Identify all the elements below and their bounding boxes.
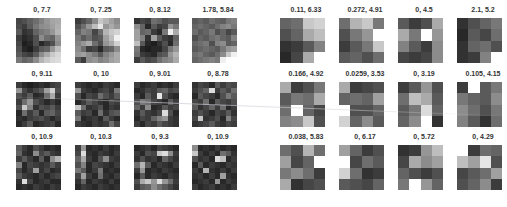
pixel-cell: [373, 52, 384, 63]
pixel-cell: [373, 156, 384, 167]
pixel-cell: [373, 18, 384, 29]
pixel-cell: [480, 168, 491, 179]
pixel-cell: [398, 105, 409, 116]
pixel-grid: [280, 82, 325, 127]
pixel-cell: [339, 18, 350, 29]
pixel-cell: [314, 168, 325, 179]
pixel-cell: [280, 41, 291, 52]
pixel-grid: [457, 18, 502, 63]
pixel-cell: [421, 156, 432, 167]
pixel-cell: [468, 156, 479, 167]
pixel-cell: [457, 93, 468, 104]
pixel-cell: [491, 41, 502, 52]
pixel-cell: [468, 41, 479, 52]
pixel-cell: [421, 105, 432, 116]
pixel-cell: [303, 116, 314, 127]
pixel-cell: [291, 145, 302, 156]
pixel-cell: [432, 93, 443, 104]
pixel-cell: [231, 57, 237, 63]
pixel-grid: [192, 145, 237, 190]
pixel-cell: [291, 29, 302, 40]
pixel-grid: [398, 145, 443, 190]
pixel-cell: [457, 82, 468, 93]
pixel-cell: [314, 18, 325, 29]
pixel-cell: [362, 179, 373, 190]
pixel-cell: [303, 93, 314, 104]
pixel-cell: [362, 52, 373, 63]
pixel-cell: [491, 116, 502, 127]
pixel-cell: [314, 29, 325, 40]
pixel-cell: [491, 145, 502, 156]
pixel-cell: [350, 82, 361, 93]
pixel-cell: [409, 52, 420, 63]
pixel-cell: [457, 52, 468, 63]
pixel-cell: [314, 105, 325, 116]
pixel-cell: [421, 116, 432, 127]
pixel-cell: [314, 82, 325, 93]
pixel-cell: [314, 145, 325, 156]
pixel-cell: [480, 145, 491, 156]
pixel-cell: [362, 41, 373, 52]
pixel-cell: [303, 82, 314, 93]
pixel-cell: [432, 82, 443, 93]
pixel-cell: [373, 93, 384, 104]
pixel-cell: [280, 168, 291, 179]
pixel-cell: [398, 116, 409, 127]
pixel-grid: [339, 18, 384, 63]
pixel-cell: [491, 29, 502, 40]
pixel-cell: [362, 168, 373, 179]
pixel-cell: [409, 168, 420, 179]
pixel-cell: [480, 82, 491, 93]
pixel-cell: [280, 18, 291, 29]
pixel-cell: [421, 82, 432, 93]
pixel-cell: [362, 145, 373, 156]
pixel-cell: [362, 156, 373, 167]
pixel-cell: [303, 179, 314, 190]
pixel-cell: [55, 184, 61, 190]
pixel-grid: [339, 82, 384, 127]
pixel-cell: [373, 29, 384, 40]
pixel-cell: [432, 29, 443, 40]
pixel-cell: [468, 82, 479, 93]
pixel-cell: [291, 93, 302, 104]
pixel-cell: [457, 168, 468, 179]
pixel-cell: [457, 156, 468, 167]
tile-label: 0.105, 4.15: [447, 70, 507, 77]
pixel-cell: [432, 168, 443, 179]
pixel-cell: [457, 116, 468, 127]
pixel-cell: [114, 57, 120, 63]
pixel-cell: [291, 82, 302, 93]
pixel-cell: [491, 52, 502, 63]
tile-label: 1.78, 5.84: [182, 6, 254, 13]
pixel-cell: [409, 82, 420, 93]
pixel-grid: [457, 82, 502, 127]
pixel-grid: [280, 18, 325, 63]
pixel-cell: [350, 168, 361, 179]
pixel-cell: [339, 82, 350, 93]
pixel-cell: [173, 57, 179, 63]
pixel-cell: [291, 52, 302, 63]
pixel-cell: [373, 116, 384, 127]
pixel-cell: [421, 52, 432, 63]
pixel-cell: [432, 52, 443, 63]
pixel-cell: [280, 82, 291, 93]
pixel-cell: [350, 145, 361, 156]
pixel-cell: [432, 156, 443, 167]
tile-label: 0, 4.29: [447, 133, 507, 140]
pixel-cell: [55, 57, 61, 63]
pixel-cell: [468, 29, 479, 40]
pixel-cell: [421, 41, 432, 52]
pixel-cell: [480, 93, 491, 104]
pixel-cell: [398, 145, 409, 156]
pixel-cell: [421, 18, 432, 29]
pixel-cell: [480, 179, 491, 190]
pixel-cell: [398, 52, 409, 63]
pixel-cell: [398, 41, 409, 52]
pixel-cell: [491, 179, 502, 190]
pixel-cell: [291, 179, 302, 190]
pixel-cell: [491, 18, 502, 29]
pixel-cell: [480, 29, 491, 40]
pixel-cell: [432, 41, 443, 52]
pixel-cell: [314, 156, 325, 167]
pixel-cell: [314, 179, 325, 190]
